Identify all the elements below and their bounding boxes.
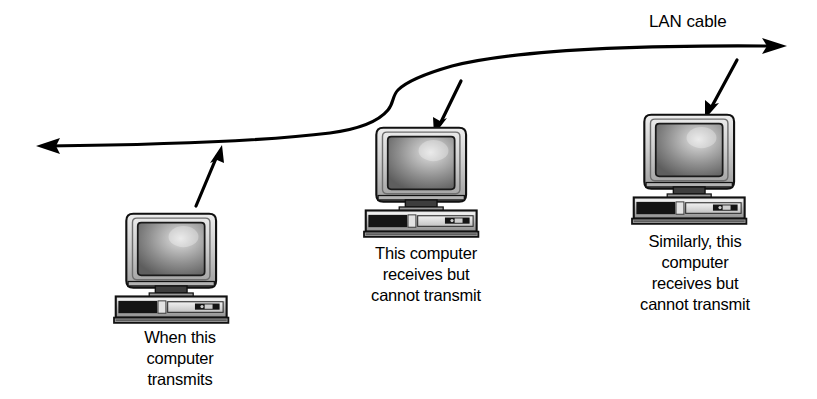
caption-line: Similarly, this <box>597 231 793 252</box>
computer-left[interactable] <box>114 214 228 323</box>
computer-middle[interactable] <box>364 128 478 237</box>
caption-line: transmits <box>70 369 290 390</box>
caption-line: receives but <box>597 273 793 294</box>
caption-line: cannot transmit <box>326 285 526 306</box>
lan-diagram-canvas: LAN cable When this computer transmits T… <box>0 0 817 399</box>
caption-computer-middle: This computer receives but cannot transm… <box>326 243 526 306</box>
caption-computer-left: When this computer transmits <box>70 327 290 390</box>
pointer-arrow-right <box>705 60 737 119</box>
caption-line: cannot transmit <box>597 294 793 315</box>
computer-right[interactable] <box>632 115 746 224</box>
caption-line: computer <box>597 252 793 273</box>
caption-computer-right: Similarly, this computer receives but ca… <box>597 231 793 315</box>
lan-cable-label: LAN cable <box>649 12 727 32</box>
caption-line: receives but <box>326 264 526 285</box>
pointer-arrow-left <box>196 145 224 206</box>
caption-line: This computer <box>326 243 526 264</box>
caption-line: computer <box>70 348 290 369</box>
caption-line: When this <box>70 327 290 348</box>
